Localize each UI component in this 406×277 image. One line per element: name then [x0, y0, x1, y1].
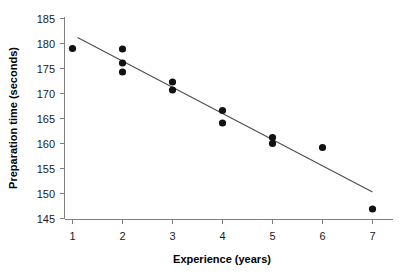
x-axis: 1 2 3 4 5 6 7 Experience (years): [65, 220, 394, 266]
x-axis-title: Experience (years): [173, 253, 271, 265]
data-point: [219, 119, 226, 126]
y-tick-label: 150: [37, 188, 55, 200]
y-tick-label: 185: [37, 13, 55, 25]
scatter-chart: 185 180 175 170 165 160 155 150 145 Prep…: [0, 0, 406, 277]
y-tick-label: 145: [37, 213, 55, 225]
y-axis-tick-labels: 185 180 175 170 165 160 155 150 145: [37, 13, 55, 225]
x-tick-label: 3: [169, 230, 175, 242]
x-axis-ticks: [73, 220, 373, 225]
y-tick-label: 155: [37, 163, 55, 175]
data-point: [269, 140, 276, 147]
y-axis-title: Preparation time (seconds): [7, 47, 19, 189]
y-axis: 185 180 175 170 165 160 155 150 145 Prep…: [7, 13, 65, 225]
x-tick-label: 5: [269, 230, 275, 242]
data-point: [119, 59, 126, 66]
y-tick-label: 165: [37, 113, 55, 125]
plot-area: 185 180 175 170 165 160 155 150 145 Prep…: [0, 0, 406, 277]
data-point: [119, 45, 126, 52]
x-tick-label: 6: [319, 230, 325, 242]
y-tick-label: 180: [37, 38, 55, 50]
data-point: [169, 78, 176, 85]
y-tick-label: 175: [37, 63, 55, 75]
y-axis-ticks: [60, 19, 65, 219]
data-point: [219, 107, 226, 114]
data-point: [169, 86, 176, 93]
data-point: [119, 68, 126, 75]
x-axis-tick-labels: 1 2 3 4 5 6 7: [69, 230, 375, 242]
data-point: [319, 144, 326, 151]
y-tick-label: 160: [37, 138, 55, 150]
data-point: [369, 205, 376, 212]
x-tick-label: 4: [219, 230, 225, 242]
x-tick-label: 7: [369, 230, 375, 242]
y-tick-label: 170: [37, 88, 55, 100]
x-tick-label: 1: [69, 230, 75, 242]
x-tick-label: 2: [119, 230, 125, 242]
data-point: [69, 45, 76, 52]
data-points-group: [69, 45, 376, 213]
